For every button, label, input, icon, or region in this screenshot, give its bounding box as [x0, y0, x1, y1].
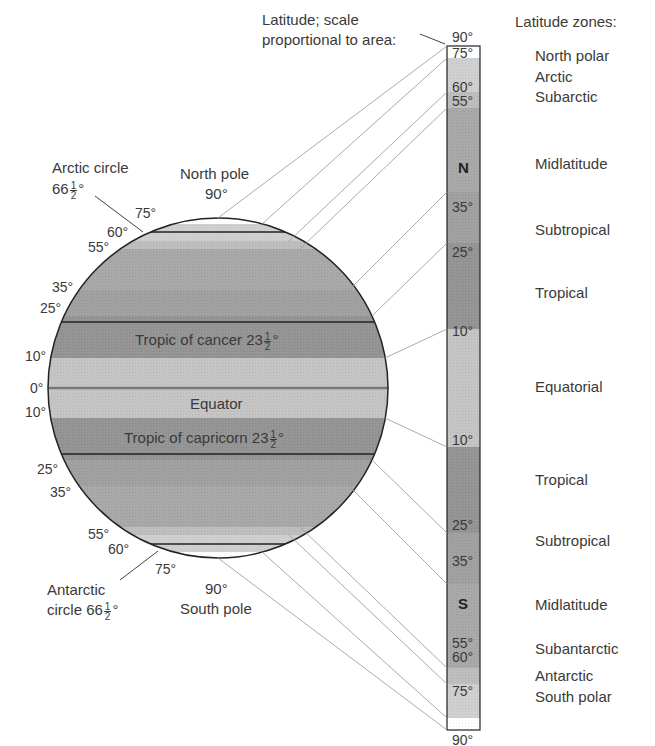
- globe-tick-n25: 25°: [40, 301, 61, 315]
- globe-tick-s10: 10°: [25, 405, 46, 419]
- zone-equatorial: Equatorial: [535, 379, 603, 394]
- column-tick-s25: 25°: [452, 518, 473, 532]
- column-top-deg: 90°: [452, 30, 473, 44]
- latitude-diagram: [0, 0, 655, 746]
- arctic-circle-label: Arctic circle: [52, 160, 129, 175]
- globe-tick-s75: 75°: [155, 562, 176, 576]
- globe-tick-s35: 35°: [50, 485, 71, 499]
- column-tick-n25: 25°: [452, 245, 473, 259]
- tropic-cancer-den: 2: [264, 342, 272, 351]
- zones-title: Latitude zones:: [515, 14, 617, 29]
- north-pole-deg: 90°: [205, 186, 228, 201]
- north-pole-label: North pole: [180, 166, 249, 181]
- globe-tick-0: 0°: [30, 381, 43, 395]
- arctic-den: 2: [70, 191, 78, 200]
- zone-arctic: Arctic: [535, 69, 573, 84]
- zone-subtropical-north: Subtropical: [535, 222, 610, 237]
- globe-tick-s60: 60°: [108, 542, 129, 556]
- south-pole-label: South pole: [180, 601, 252, 616]
- column-tick-s35: 35°: [452, 554, 473, 568]
- column-tick-n35: 35°: [452, 200, 473, 214]
- scale-title-line1: Latitude; scale: [262, 10, 396, 30]
- column-tick-n10: 10°: [452, 324, 473, 338]
- globe-tick-n10: 10°: [25, 349, 46, 363]
- zone-south-polar: South polar: [535, 689, 612, 704]
- arctic-deg: °: [78, 180, 84, 197]
- antarctic-deg: °: [112, 601, 118, 618]
- globe-tick-s55: 55°: [88, 527, 109, 541]
- zone-north-polar: North polar: [535, 48, 609, 63]
- globe: [40, 210, 400, 570]
- zone-midlatitude-north: Midlatitude: [535, 156, 608, 171]
- antarctic-circle-line2: circle 6612°: [47, 602, 118, 621]
- globe-tick-n60: 60°: [107, 225, 128, 239]
- column-tick-n55: 55°: [452, 94, 473, 108]
- arctic-circle-text: Arctic circle: [52, 159, 129, 176]
- column-tick-n75: 75°: [452, 46, 473, 60]
- scale-title-line2: proportional to area:: [262, 30, 396, 50]
- zone-tropical-south: Tropical: [535, 472, 588, 487]
- south-marker: S: [458, 596, 468, 611]
- north-marker: N: [458, 160, 469, 175]
- column-tick-s60: 60°: [452, 650, 473, 664]
- zone-subarctic: Subarctic: [535, 89, 598, 104]
- globe-tick-n55: 55°: [88, 240, 109, 254]
- tropic-capricorn-den: 2: [270, 440, 278, 449]
- arctic-whole: 66: [52, 180, 69, 197]
- zone-midlatitude-south: Midlatitude: [535, 597, 608, 612]
- antarctic-circle-line1: Antarctic: [47, 582, 105, 597]
- title-leader: [420, 34, 445, 44]
- column-tick-s10: 10°: [452, 433, 473, 447]
- zone-tropical-north: Tropical: [535, 285, 588, 300]
- column-tick-s55: 55°: [452, 636, 473, 650]
- column-bottom-deg: 90°: [452, 733, 473, 746]
- tropic-cancer-text: Tropic of cancer 23: [135, 331, 263, 348]
- area-scale-column: [447, 46, 480, 730]
- tropic-capricorn-text: Tropic of capricorn 23: [124, 429, 269, 446]
- globe-tick-n75: 75°: [135, 206, 156, 220]
- south-pole-deg: 90°: [205, 581, 228, 596]
- antarctic-den: 2: [104, 612, 112, 621]
- antarctic-text: circle 66: [47, 601, 103, 618]
- globe-tick-s25: 25°: [37, 462, 58, 476]
- tropic-of-cancer-label: Tropic of cancer 2312°: [135, 332, 278, 351]
- zone-subantarctic: Subantarctic: [535, 641, 618, 656]
- globe-tick-n35: 35°: [52, 280, 73, 294]
- arctic-circle-value: 6612°: [52, 181, 84, 200]
- zone-subtropical-south: Subtropical: [535, 533, 610, 548]
- column-tick-n60: 60°: [452, 80, 473, 94]
- scale-title: Latitude; scale proportional to area:: [262, 10, 396, 50]
- column-tick-s75: 75°: [452, 684, 473, 698]
- zone-antarctic: Antarctic: [535, 668, 593, 683]
- tropic-capricorn-deg: °: [278, 429, 284, 446]
- tropic-of-capricorn-label: Tropic of capricorn 2312°: [124, 430, 284, 449]
- tropic-cancer-deg: °: [272, 331, 278, 348]
- equator-label: Equator: [190, 396, 243, 411]
